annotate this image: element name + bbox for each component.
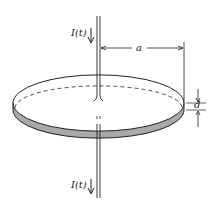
radius-label: a <box>136 42 142 53</box>
capacitor-diagram: I(t) I(t) a d <box>0 0 209 211</box>
current-label-top: I(t) <box>70 27 87 38</box>
current-arrow-bottom <box>88 179 94 194</box>
current-arrow-top <box>88 28 94 43</box>
current-label-bottom: I(t) <box>70 179 87 190</box>
radius-dimension <box>101 42 184 102</box>
separation-label: d <box>194 99 200 110</box>
wire-bottom <box>97 116 100 198</box>
bottom-plate <box>13 103 184 138</box>
top-plate <box>13 75 184 131</box>
wire-top <box>94 16 103 101</box>
